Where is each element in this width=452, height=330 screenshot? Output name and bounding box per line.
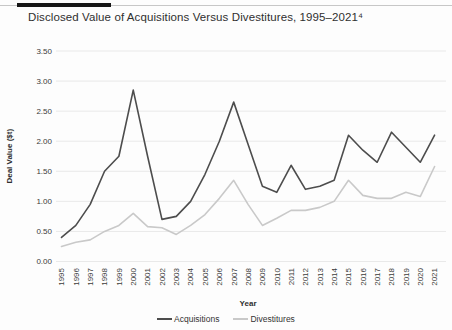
x-tick-label: 2009 — [258, 267, 267, 285]
x-tick-label: 2000 — [129, 267, 138, 285]
x-tick-label: 2002 — [158, 267, 167, 285]
x-tick-label: 2008 — [244, 267, 253, 285]
y-axis-title: Deal Value ($t) — [5, 129, 14, 184]
x-tick-label: 1999 — [115, 267, 124, 285]
legend: Acquisitions Divestitures — [0, 312, 452, 326]
x-tick-label: 2020 — [416, 267, 425, 285]
x-tick-label: 2015 — [344, 267, 353, 285]
divestitures-line — [62, 166, 435, 246]
x-tick-label: 1995 — [57, 267, 66, 285]
x-tick-label: 2012 — [301, 267, 310, 285]
x-tick-label: 1996 — [72, 267, 81, 285]
y-tick-label: 2.00 — [36, 137, 52, 146]
divestitures-line-marker-icon — [233, 318, 248, 320]
x-tick-label: 2014 — [330, 267, 339, 285]
legend-label-acquisitions: Acquisitions — [174, 314, 219, 324]
chart-figure: Disclosed Value of Acquisitions Versus D… — [0, 0, 452, 330]
x-tick-label: 2003 — [172, 267, 181, 285]
x-tick-label: 2017 — [373, 267, 382, 285]
y-tick-label: 0.50 — [36, 227, 52, 236]
legend-label-divestitures: Divestitures — [250, 314, 294, 324]
acquisitions-line — [62, 90, 435, 237]
y-tick-label: 0.00 — [36, 257, 52, 266]
x-tick-label: 1997 — [86, 267, 95, 285]
x-tick-label: 2007 — [230, 267, 239, 285]
y-tick-label: 1.50 — [36, 167, 52, 176]
x-tick-label: 2004 — [186, 267, 195, 285]
x-tick-label: 2006 — [215, 267, 224, 285]
x-tick-label: 1998 — [100, 267, 109, 285]
legend-item-acquisitions: Acquisitions — [157, 314, 219, 324]
acquisitions-line-marker-icon — [157, 318, 172, 320]
x-tick-label: 2005 — [201, 267, 210, 285]
x-tick-label: 2011 — [287, 267, 296, 285]
x-tick-label: 2001 — [143, 267, 152, 285]
x-tick-label: 2019 — [402, 267, 411, 285]
line-chart-canvas: 0.000.501.001.502.002.503.003.5019951996… — [0, 0, 452, 312]
y-tick-label: 3.50 — [36, 47, 52, 56]
y-tick-label: 3.00 — [36, 77, 52, 86]
y-tick-label: 2.50 — [36, 107, 52, 116]
legend-item-divestitures: Divestitures — [233, 314, 294, 324]
x-tick-label: 2018 — [387, 267, 396, 285]
x-tick-label: 2021 — [430, 267, 439, 285]
x-tick-label: 2013 — [316, 267, 325, 285]
x-tick-label: 2016 — [359, 267, 368, 285]
x-tick-label: 2010 — [273, 267, 282, 285]
y-tick-label: 1.00 — [36, 197, 52, 206]
x-axis-title: Year — [240, 299, 257, 308]
